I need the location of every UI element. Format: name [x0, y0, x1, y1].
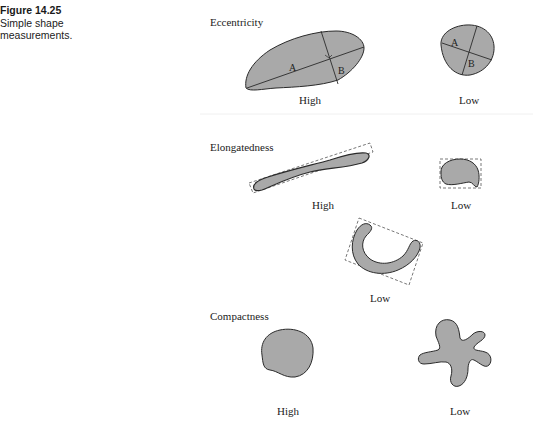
- elongatedness-low-shape: [440, 159, 481, 188]
- axis-a-label: A: [451, 37, 459, 48]
- elongatedness-low2-shape: [345, 218, 423, 285]
- eccentricity-low-shape: A B: [441, 25, 494, 75]
- compactness-low-shape: [418, 320, 491, 387]
- elongatedness-high-shape: [249, 143, 373, 193]
- compactness-high-shape: [262, 329, 313, 377]
- axis-b-label: B: [338, 65, 345, 76]
- axis-a-label: A: [289, 62, 297, 73]
- axis-b-label: B: [468, 58, 475, 69]
- eccentricity-high-shape: A B: [246, 31, 364, 90]
- figure-artwork: A B A B: [0, 0, 533, 438]
